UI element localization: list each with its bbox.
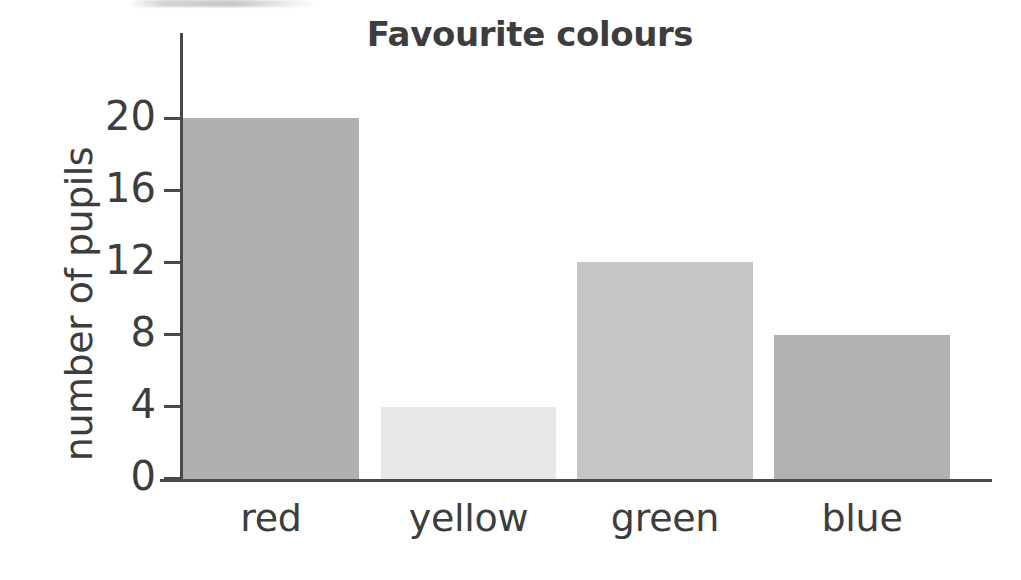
- bar-blue: [774, 335, 950, 479]
- category-label-green: green: [577, 496, 753, 540]
- category-label-yellow: yellow: [381, 496, 556, 540]
- category-label-blue: blue: [774, 496, 950, 540]
- plot-area: [0, 0, 1021, 480]
- bar-yellow: [381, 407, 556, 479]
- bar-chart-figure: Favourite colours number of pupils 20161…: [0, 0, 1021, 580]
- category-label-red: red: [183, 496, 359, 540]
- bar-red: [183, 118, 359, 479]
- bar-green: [577, 262, 753, 479]
